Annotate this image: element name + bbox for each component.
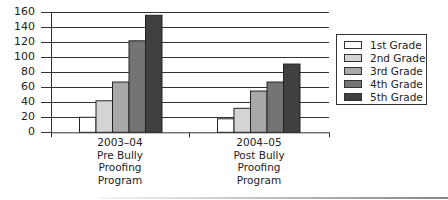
legend-label: 1st Grade — [370, 39, 422, 51]
legend: 1st Grade 2nd Grade 3rd Grade 4th Grade … — [336, 34, 427, 105]
legend-item-3rd-grade: 3rd Grade — [344, 65, 423, 77]
y-tick-label: 100 — [1, 51, 35, 63]
bar-4th-grade — [267, 82, 284, 132]
y-tick-label: 20 — [1, 111, 35, 123]
legend-item-4th-grade: 4th Grade — [344, 78, 423, 90]
y-tick-label: 140 — [1, 21, 35, 33]
x-category-label: 2003–04Pre BullyProofingProgram — [65, 136, 175, 186]
legend-swatch — [344, 80, 362, 88]
bar-2nd-grade — [96, 101, 113, 133]
bar-5th-grade — [284, 64, 301, 132]
y-tick-label: 40 — [1, 96, 35, 108]
y-tick-label: 120 — [1, 36, 35, 48]
legend-label: 4th Grade — [370, 78, 423, 90]
bar-1st-grade — [218, 119, 235, 133]
bar-4th-grade — [129, 41, 146, 133]
y-tick-label: 160 — [1, 6, 35, 18]
x-category-label: 2004–05Post BullyProofingProgram — [204, 136, 314, 186]
bar-1st-grade — [80, 117, 97, 132]
bar-3rd-grade — [113, 82, 130, 132]
legend-swatch — [344, 67, 362, 75]
y-tick-label: 0 — [1, 126, 35, 138]
legend-swatch — [344, 93, 362, 101]
legend-item-1st-grade: 1st Grade — [344, 39, 422, 51]
legend-swatch — [344, 54, 362, 62]
legend-swatch — [344, 41, 362, 49]
legend-label: 3rd Grade — [370, 65, 423, 77]
bar-5th-grade — [146, 15, 163, 132]
bar-chart: 020406080100120140160 2003–04Pre BullyPr… — [0, 0, 448, 200]
bar-2nd-grade — [234, 108, 251, 132]
legend-item-5th-grade: 5th Grade — [344, 91, 423, 103]
bar-3rd-grade — [251, 91, 268, 132]
y-tick-label: 60 — [1, 81, 35, 93]
legend-label: 2nd Grade — [370, 52, 425, 64]
bottom-divider — [100, 197, 448, 199]
legend-label: 5th Grade — [370, 91, 423, 103]
legend-item-2nd-grade: 2nd Grade — [344, 52, 425, 64]
y-tick-label: 80 — [1, 66, 35, 78]
